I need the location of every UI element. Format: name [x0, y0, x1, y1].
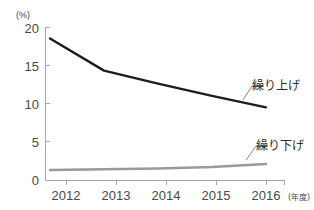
x-axis-note: (年度) [288, 192, 310, 202]
series-line-kuriage [50, 38, 266, 107]
y-tick-label-10: 10 [25, 97, 39, 112]
series-line-kurisage [50, 164, 266, 170]
y-tick-label-20: 20 [25, 21, 39, 36]
x-tick-label-2013: 2013 [102, 188, 131, 203]
x-tick-label-2015: 2015 [202, 188, 231, 203]
series-label-kuriage: 繰り上げ [252, 79, 300, 93]
chart-container: (%) 20 15 10 5 0 2012 2013 2014 2015 201… [0, 0, 314, 210]
line-chart: (%) 20 15 10 5 0 2012 2013 2014 2015 201… [0, 0, 314, 210]
y-tick-marks [46, 28, 51, 142]
y-axis-unit-label: (%) [16, 10, 30, 20]
y-tick-label-0: 0 [32, 173, 39, 188]
x-tick-label-2014: 2014 [152, 188, 181, 203]
y-tick-label-15: 15 [25, 59, 39, 74]
x-tick-marks [67, 181, 285, 186]
x-tick-label-2012: 2012 [52, 188, 81, 203]
series-label-kurisage: 繰り下げ [256, 139, 304, 153]
y-tick-label-5: 5 [32, 135, 39, 150]
x-tick-label-2016: 2016 [252, 188, 281, 203]
